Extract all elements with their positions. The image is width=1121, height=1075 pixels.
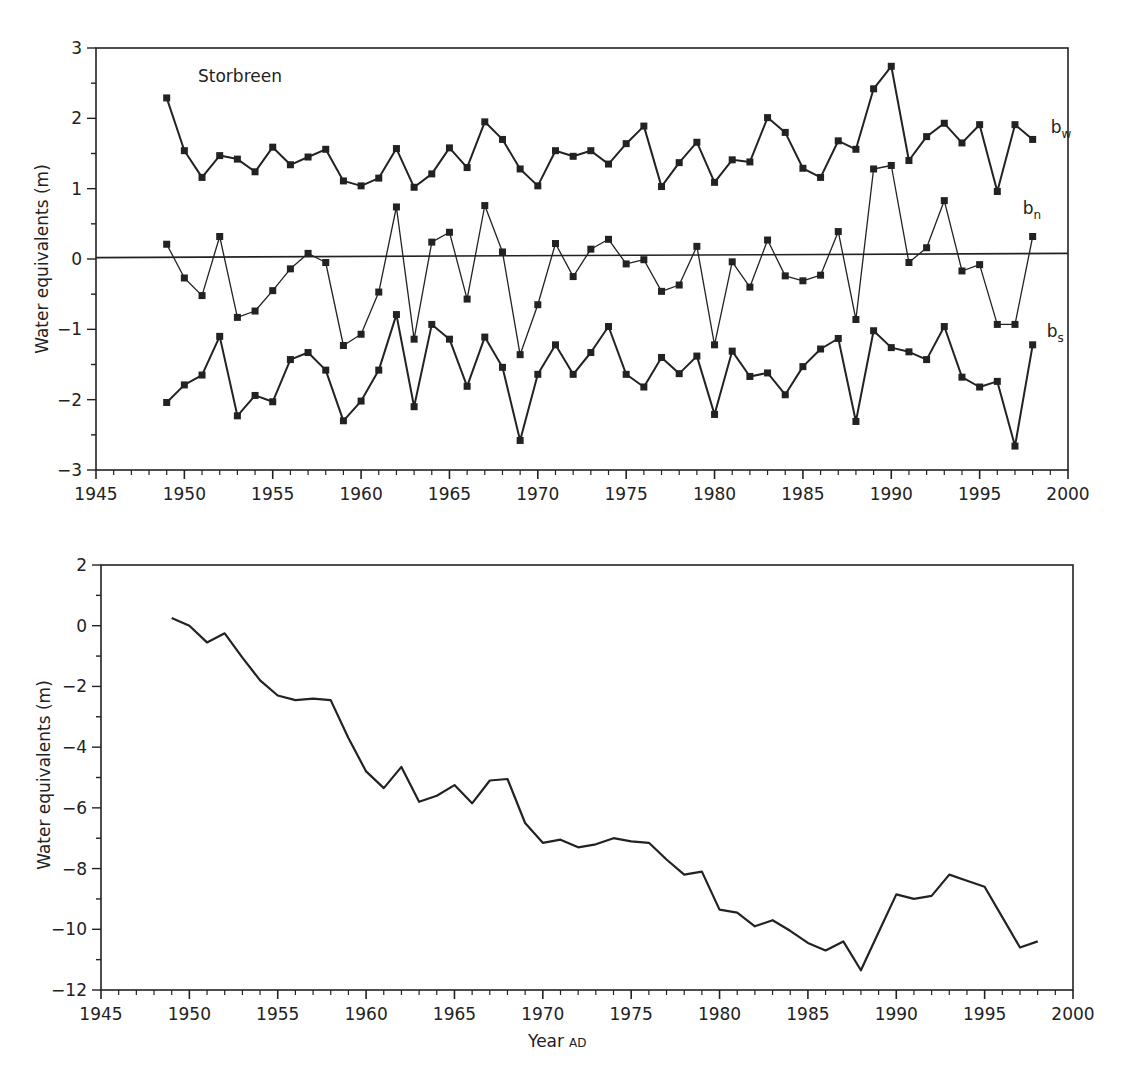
data-marker [570, 371, 577, 378]
storbreen-balance-chart: 1945195019551960196519701975198019851990… [32, 38, 1090, 504]
bottom-plot-frame [101, 565, 1073, 990]
data-marker [199, 292, 206, 299]
data-marker [870, 85, 877, 92]
data-marker [163, 399, 170, 406]
x-tick-label: 1980 [698, 1004, 741, 1024]
data-marker [375, 289, 382, 296]
data-marker [905, 259, 912, 266]
x-tick-label: 1975 [605, 484, 648, 504]
data-marker [782, 272, 789, 279]
data-marker [976, 121, 983, 128]
data-marker [252, 308, 259, 315]
data-marker [305, 250, 312, 257]
data-marker [958, 267, 965, 274]
data-marker [446, 144, 453, 151]
y-tick-label: 0 [71, 249, 82, 269]
data-marker [1011, 121, 1018, 128]
data-marker [1029, 341, 1036, 348]
x-tick-label: 1950 [168, 1004, 211, 1024]
data-marker [835, 335, 842, 342]
data-marker [428, 170, 435, 177]
data-marker [464, 164, 471, 171]
x-tick-label: 1960 [344, 1004, 387, 1024]
data-marker [605, 236, 612, 243]
series-line-bw [167, 66, 1033, 191]
data-marker [269, 287, 276, 294]
data-marker [499, 248, 506, 255]
data-marker [623, 140, 630, 147]
data-marker [888, 63, 895, 70]
y-tick-label: −2 [62, 676, 87, 696]
data-marker [322, 259, 329, 266]
data-marker [322, 146, 329, 153]
data-marker [958, 374, 965, 381]
data-marker [711, 341, 718, 348]
data-marker [746, 158, 753, 165]
data-marker [817, 174, 824, 181]
data-marker [941, 197, 948, 204]
data-marker [481, 334, 488, 341]
series-label-bn: bn [1023, 198, 1041, 222]
data-marker [552, 147, 559, 154]
data-marker [693, 139, 700, 146]
data-marker [1011, 443, 1018, 450]
y-tick-label: 2 [76, 555, 87, 575]
data-marker [305, 349, 312, 356]
top-axes: 1945195019551960196519701975198019851990… [57, 38, 1090, 504]
data-marker [340, 417, 347, 424]
data-marker [393, 145, 400, 152]
x-tick-label: 1945 [74, 484, 117, 504]
data-marker [234, 314, 241, 321]
chart-title: Storbreen [198, 66, 282, 86]
data-marker [605, 161, 612, 168]
data-marker [941, 323, 948, 330]
x-tick-label: 1980 [693, 484, 736, 504]
y-tick-label: −8 [62, 859, 87, 879]
data-marker [870, 327, 877, 334]
data-marker [517, 437, 524, 444]
data-marker [852, 146, 859, 153]
data-marker [976, 261, 983, 268]
data-marker [729, 156, 736, 163]
data-marker [517, 165, 524, 172]
zero-line [96, 253, 1068, 257]
data-marker [393, 311, 400, 318]
data-marker [799, 165, 806, 172]
data-marker [623, 371, 630, 378]
series-line-cumulative-net-balance [172, 618, 1038, 970]
data-marker [658, 183, 665, 190]
data-marker [446, 336, 453, 343]
data-marker [799, 363, 806, 370]
data-marker [994, 188, 1001, 195]
data-marker [570, 273, 577, 280]
data-marker [835, 228, 842, 235]
y-tick-label: −1 [57, 319, 82, 339]
x-tick-label: 1955 [251, 484, 294, 504]
data-marker [799, 277, 806, 284]
x-axis-label-suffix: AD [569, 1036, 586, 1050]
data-marker [976, 384, 983, 391]
data-marker [446, 229, 453, 236]
data-marker [640, 384, 647, 391]
bottom-series [172, 618, 1038, 970]
data-marker [658, 288, 665, 295]
y-tick-label: −6 [62, 798, 87, 818]
data-marker [764, 369, 771, 376]
data-marker [923, 133, 930, 140]
data-marker [782, 391, 789, 398]
x-axis-label-main: Year [527, 1031, 564, 1051]
y-tick-label: −12 [51, 980, 87, 1000]
data-marker [375, 175, 382, 182]
x-tick-label: 2000 [1051, 1004, 1094, 1024]
data-marker [199, 372, 206, 379]
x-tick-label: 1945 [79, 1004, 122, 1024]
data-marker [888, 344, 895, 351]
data-marker [216, 152, 223, 159]
data-marker [870, 165, 877, 172]
data-marker [587, 246, 594, 253]
y-tick-label: −3 [57, 460, 82, 480]
data-marker [1011, 321, 1018, 328]
data-marker [905, 348, 912, 355]
data-marker [658, 354, 665, 361]
data-marker [269, 398, 276, 405]
